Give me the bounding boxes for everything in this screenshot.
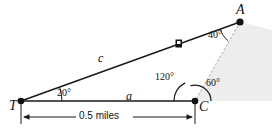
angle-label-T: 20°: [57, 88, 71, 98]
angle-label-C-exterior: 60°: [206, 78, 220, 88]
geometry-figure: T C A c a 20° 40° 120° 60° 0.5 miles: [0, 0, 272, 136]
angle-label-C-interior: 120°: [155, 72, 174, 82]
side-label-a: a: [126, 90, 132, 102]
angle-arc-C-interior: [174, 83, 185, 101]
angle-label-A: 40°: [208, 30, 222, 40]
dimension-label: 0.5 miles: [79, 111, 119, 121]
vertex-label-C: C: [199, 100, 208, 114]
object-marker-inner: [177, 41, 181, 44]
vertex-label-T: T: [9, 99, 17, 113]
vertex-dot-A: [236, 18, 243, 25]
diagram-canvas: [0, 0, 272, 136]
side-label-c: c: [98, 52, 103, 64]
vertex-dot-T: [18, 98, 25, 105]
vertex-dot-C: [192, 98, 199, 105]
vertex-label-A: A: [236, 3, 245, 17]
